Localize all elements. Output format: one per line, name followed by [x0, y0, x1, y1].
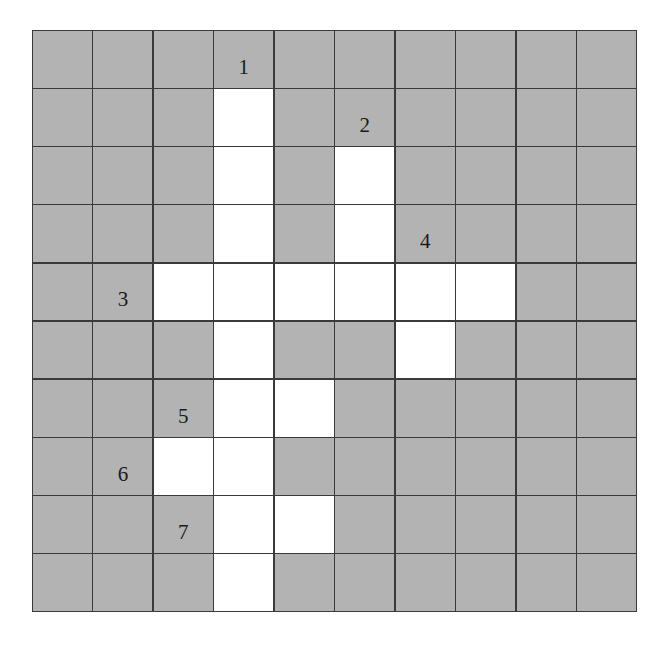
blocked-cell — [396, 438, 455, 495]
blocked-cell — [577, 438, 636, 495]
blocked-cell — [335, 496, 394, 553]
blocked-cell — [33, 438, 92, 495]
blocked-cell — [93, 554, 152, 611]
blocked-cell — [396, 147, 455, 204]
blocked-cell — [517, 31, 576, 88]
blocked-cell — [93, 322, 152, 379]
blocked-cell — [577, 380, 636, 437]
blocked-cell — [335, 31, 394, 88]
answer-cell[interactable] — [335, 205, 394, 262]
blocked-cell — [456, 322, 515, 379]
blocked-cell — [456, 496, 515, 553]
blocked-cell — [396, 31, 455, 88]
blocked-cell — [335, 438, 394, 495]
blocked-cell — [93, 147, 152, 204]
blocked-cell — [456, 89, 515, 146]
blocked-cell — [517, 380, 576, 437]
blocked-cell — [396, 496, 455, 553]
blocked-cell — [456, 438, 515, 495]
blocked-cell — [33, 89, 92, 146]
blocked-cell — [456, 380, 515, 437]
answer-cell[interactable] — [214, 554, 273, 611]
answer-cell[interactable] — [335, 264, 394, 321]
answer-cell[interactable] — [214, 205, 273, 262]
blocked-cell — [275, 438, 334, 495]
answer-cell[interactable] — [214, 322, 273, 379]
blocked-cell — [335, 554, 394, 611]
clue-number-label: 3 — [93, 289, 152, 310]
blocked-cell — [33, 205, 92, 262]
blocked-cell — [517, 322, 576, 379]
blocked-cell: 2 — [335, 89, 394, 146]
blocked-cell: 5 — [154, 380, 213, 437]
blocked-cell — [93, 380, 152, 437]
answer-cell[interactable] — [396, 322, 455, 379]
blocked-cell: 1 — [214, 31, 273, 88]
blocked-cell — [577, 264, 636, 321]
blocked-cell — [275, 31, 334, 88]
blocked-cell — [93, 205, 152, 262]
answer-cell[interactable] — [456, 264, 515, 321]
blocked-cell — [396, 554, 455, 611]
blocked-cell — [396, 89, 455, 146]
blocked-cell — [154, 147, 213, 204]
answer-cell[interactable] — [335, 147, 394, 204]
blocked-cell — [275, 147, 334, 204]
answer-cell[interactable] — [154, 264, 213, 321]
blocked-cell — [154, 31, 213, 88]
blocked-cell — [517, 554, 576, 611]
answer-cell[interactable] — [154, 438, 213, 495]
blocked-cell — [33, 147, 92, 204]
blocked-cell — [275, 554, 334, 611]
answer-cell[interactable] — [275, 496, 334, 553]
answer-cell[interactable] — [396, 264, 455, 321]
clue-number-label: 1 — [214, 57, 273, 78]
blocked-cell — [335, 380, 394, 437]
blocked-cell — [577, 496, 636, 553]
blocked-cell — [456, 205, 515, 262]
blocked-cell — [33, 496, 92, 553]
crossword-grid: 1243567 — [32, 30, 637, 612]
blocked-cell — [396, 380, 455, 437]
answer-cell[interactable] — [275, 264, 334, 321]
blocked-cell — [456, 31, 515, 88]
blocked-cell — [93, 496, 152, 553]
answer-cell[interactable] — [214, 496, 273, 553]
blocked-cell — [93, 89, 152, 146]
blocked-cell — [33, 380, 92, 437]
blocked-cell — [517, 496, 576, 553]
answer-cell[interactable] — [214, 438, 273, 495]
blocked-cell — [154, 554, 213, 611]
answer-cell[interactable] — [275, 380, 334, 437]
blocked-cell: 7 — [154, 496, 213, 553]
blocked-cell — [577, 147, 636, 204]
blocked-cell — [456, 554, 515, 611]
answer-cell[interactable] — [214, 89, 273, 146]
clue-number-label: 4 — [396, 231, 455, 252]
blocked-cell — [275, 89, 334, 146]
answer-cell[interactable] — [214, 380, 273, 437]
blocked-cell — [154, 322, 213, 379]
blocked-cell — [154, 89, 213, 146]
blocked-cell — [33, 554, 92, 611]
blocked-cell — [93, 31, 152, 88]
blocked-cell — [33, 264, 92, 321]
blocked-cell — [154, 205, 213, 262]
blocked-cell — [275, 205, 334, 262]
blocked-cell — [577, 554, 636, 611]
blocked-cell: 4 — [396, 205, 455, 262]
clue-number-label: 7 — [154, 522, 213, 543]
blocked-cell — [517, 205, 576, 262]
blocked-cell — [275, 322, 334, 379]
blocked-cell — [577, 89, 636, 146]
blocked-cell — [517, 147, 576, 204]
blocked-cell — [517, 438, 576, 495]
blocked-cell — [577, 205, 636, 262]
blocked-cell — [335, 322, 394, 379]
clue-number-label: 5 — [154, 406, 213, 427]
answer-cell[interactable] — [214, 264, 273, 321]
blocked-cell — [517, 89, 576, 146]
clue-number-label: 6 — [93, 464, 152, 485]
blocked-cell — [577, 322, 636, 379]
answer-cell[interactable] — [214, 147, 273, 204]
